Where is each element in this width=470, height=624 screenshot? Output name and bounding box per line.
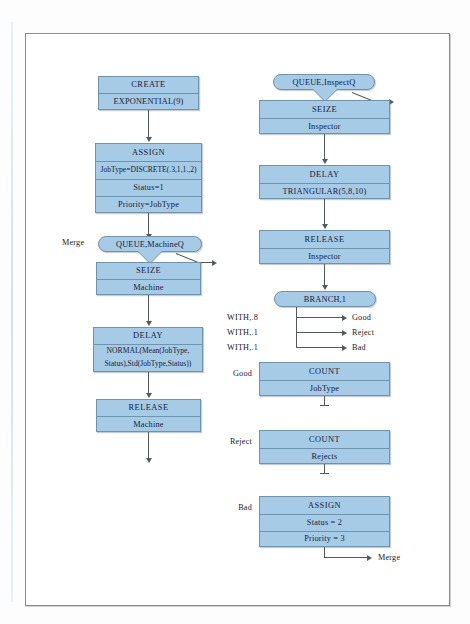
arrowhead-seize-to-delay-left <box>146 321 152 326</box>
branch-condition-1-line <box>296 332 343 333</box>
arrowhead-release-to-branch <box>322 285 328 290</box>
block-create[interactable]: CREATE EXPONENTIAL(9) <box>98 76 199 110</box>
block-count-good[interactable]: COUNT JobType <box>259 362 390 396</box>
connector-seize-to-delay-right <box>324 134 325 160</box>
block-seize-inspector-title: SEIZE <box>260 101 389 118</box>
block-delay-triangular-title: DELAY <box>260 166 389 183</box>
block-assign-bad-row-0: Status = 2 <box>260 514 389 531</box>
diagram-canvas: CREATE EXPONENTIAL(9) ASSIGN JobType=DIS… <box>0 0 470 624</box>
label-merge-entry: Merge <box>62 238 84 247</box>
terminator-count-good <box>320 405 329 406</box>
arrowhead-assign-bad-merge <box>367 555 372 561</box>
queue-inspectq[interactable]: QUEUE,InspectQ <box>273 74 375 90</box>
label-bad-entry: Bad <box>238 503 252 512</box>
arrowhead-create-to-assign <box>146 137 152 142</box>
block-delay-triangular-row-0: TRIANGULAR(5,8,10) <box>260 183 389 199</box>
block-count-good-title: COUNT <box>260 363 389 380</box>
block-seize-inspector-row-0: Inspector <box>260 118 389 134</box>
queue-machineq-label: QUEUE,MachineQ <box>116 240 184 249</box>
block-release-machine[interactable]: RELEASE Machine <box>96 399 201 432</box>
label-merge-exit: Merge <box>378 553 400 562</box>
block-assign-bad-title: ASSIGN <box>260 497 389 514</box>
block-count-good-row-0: JobType <box>260 380 389 396</box>
branch-condition-1-with: WITH,.1 <box>227 328 258 337</box>
block-release-machine-title: RELEASE <box>97 400 200 416</box>
block-delay-normal-title: DELAY <box>94 328 202 344</box>
block-assign-bad[interactable]: ASSIGN Status = 2 Priority = 3 <box>259 496 390 547</box>
block-assign-title: ASSIGN <box>96 144 201 161</box>
block-seize-inspector[interactable]: SEIZE Inspector <box>259 100 390 134</box>
block-count-reject-row-0: Rejects <box>260 448 389 464</box>
block-release-inspector[interactable]: RELEASE Inspector <box>259 230 390 264</box>
block-release-machine-row-0: Machine <box>97 416 200 432</box>
branch-condition-0-arrowhead <box>342 315 347 321</box>
block-release-inspector-row-0: Inspector <box>260 248 389 264</box>
block-count-reject[interactable]: COUNT Rejects <box>259 430 390 464</box>
queue-inspectq-label: QUEUE,InspectQ <box>293 78 356 87</box>
connector-release-to-branch <box>324 264 325 286</box>
connector-assign-to-queue <box>148 213 149 235</box>
arrowhead-release-machine-out <box>146 458 152 463</box>
branch-condition-2-arrowhead <box>342 345 347 351</box>
branch-condition-0-with: WITH,.8 <box>227 313 258 322</box>
queue-machineq[interactable]: QUEUE,MachineQ <box>98 236 202 252</box>
block-seize-machine-title: SEIZE <box>97 263 200 279</box>
queue-machineq-balk-arrowhead <box>212 260 217 266</box>
block-delay-normal-row-0: NORMAL(Mean(JobType, <box>94 344 202 358</box>
block-assign-row-1: Status=1 <box>96 179 201 196</box>
branch-condition-1-arrowhead <box>342 330 347 336</box>
label-reject-entry: Reject <box>230 437 252 446</box>
block-seize-machine-row-0: Machine <box>97 279 200 295</box>
page-background: CREATE EXPONENTIAL(9) ASSIGN JobType=DIS… <box>0 0 470 624</box>
block-assign-row-0: JobType=DISCRETE(.3,1,1.,2) <box>96 161 201 179</box>
connector-seize-to-delay-left <box>148 295 149 322</box>
branch-label: BRANCH,1 <box>304 295 346 304</box>
block-create-row-0: EXPONENTIAL(9) <box>99 93 198 110</box>
branch-condition-1-target: Reject <box>352 328 374 337</box>
connector-delay-to-release-left <box>148 372 149 394</box>
branch-block[interactable]: BRANCH,1 <box>274 291 376 307</box>
label-good-entry: Good <box>233 369 252 378</box>
block-seize-machine[interactable]: SEIZE Machine <box>96 262 201 295</box>
branch-condition-2-target: Bad <box>352 343 366 352</box>
branch-condition-0-line <box>296 317 343 318</box>
connector-delay-to-release-right <box>324 199 325 225</box>
arrowhead-delay-to-release-left <box>146 393 152 398</box>
branch-condition-2-line <box>296 347 343 348</box>
connector-release-machine-out <box>148 432 149 459</box>
block-delay-normal-row-1: Status),Std(JobType,Status)) <box>94 358 202 371</box>
connector-create-to-assign <box>148 110 149 138</box>
block-delay-normal[interactable]: DELAY NORMAL(Mean(JobType, Status),Std(J… <box>93 327 203 372</box>
branch-spine <box>296 307 297 347</box>
block-assign-bad-row-1: Priority = 3 <box>260 531 389 546</box>
block-create-title: CREATE <box>99 77 198 93</box>
arrowhead-seize-to-delay-right <box>322 159 328 164</box>
block-count-reject-title: COUNT <box>260 431 389 448</box>
arrowhead-delay-to-release-right <box>322 224 328 229</box>
branch-condition-2-with: WITH,.1 <box>227 343 258 352</box>
terminator-count-reject <box>320 473 329 474</box>
block-assign[interactable]: ASSIGN JobType=DISCRETE(.3,1,1.,2) Statu… <box>95 143 202 213</box>
block-release-inspector-title: RELEASE <box>260 231 389 248</box>
branch-condition-0-target: Good <box>352 313 371 322</box>
block-assign-row-2: Priority=JobType <box>96 196 201 212</box>
block-delay-triangular[interactable]: DELAY TRIANGULAR(5,8,10) <box>259 165 390 199</box>
connector-assign-bad-exit-horiz <box>324 557 368 558</box>
